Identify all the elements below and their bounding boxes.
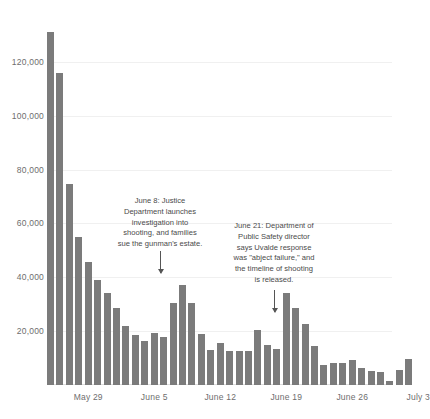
bar bbox=[245, 351, 252, 385]
bar bbox=[170, 303, 177, 385]
y-axis-tick-label: 100,000 bbox=[12, 111, 44, 121]
bar bbox=[292, 308, 299, 385]
y-axis-tick-label: 20,000 bbox=[17, 326, 44, 336]
bar bbox=[141, 341, 148, 385]
bar bbox=[47, 32, 54, 385]
annotation-june-21: June 21: Department of Public Safety dir… bbox=[219, 221, 329, 286]
bar bbox=[377, 372, 384, 385]
bar bbox=[75, 237, 82, 385]
bar bbox=[236, 351, 243, 385]
bar bbox=[283, 293, 290, 385]
bar bbox=[320, 365, 327, 385]
bar bbox=[179, 285, 186, 385]
bar bbox=[311, 346, 318, 385]
bar bbox=[396, 370, 403, 385]
bar bbox=[85, 262, 92, 385]
gridline bbox=[47, 170, 392, 171]
y-axis-tick-label: 80,000 bbox=[17, 165, 44, 175]
bar bbox=[104, 293, 111, 385]
bar bbox=[349, 360, 356, 385]
bar bbox=[160, 337, 167, 385]
bar bbox=[151, 333, 158, 386]
x-axis-tick-label: June 12 bbox=[204, 392, 236, 402]
bar bbox=[358, 368, 365, 385]
annotation-june-8-arrow bbox=[160, 251, 161, 273]
x-axis-tick-label: July 3 bbox=[407, 392, 430, 402]
gridline bbox=[47, 116, 392, 117]
bar bbox=[302, 324, 309, 385]
gridline bbox=[47, 62, 392, 63]
annotation-june-8: June 8: Justice Department launches inve… bbox=[112, 196, 208, 250]
bar bbox=[132, 335, 139, 385]
bar bbox=[339, 363, 346, 385]
bar bbox=[113, 308, 120, 385]
bar bbox=[386, 381, 393, 385]
bar bbox=[66, 184, 73, 385]
bar bbox=[330, 363, 337, 385]
annotation-june-21-arrow bbox=[274, 290, 275, 312]
y-axis-tick-label: 40,000 bbox=[17, 272, 44, 282]
bar bbox=[188, 303, 195, 385]
bar bbox=[264, 345, 271, 385]
bar bbox=[94, 280, 101, 385]
bar bbox=[368, 371, 375, 385]
y-axis-tick-label: 120,000 bbox=[12, 57, 44, 67]
bar bbox=[217, 343, 224, 385]
x-axis-tick-label: June 19 bbox=[270, 392, 302, 402]
x-axis-tick-label: June 26 bbox=[336, 392, 368, 402]
bar bbox=[56, 73, 63, 385]
bar bbox=[405, 359, 412, 385]
bar bbox=[198, 334, 205, 385]
bar bbox=[226, 351, 233, 385]
bar bbox=[122, 326, 129, 385]
x-axis-tick-label: May 29 bbox=[74, 392, 103, 402]
bar bbox=[207, 350, 214, 385]
bar bbox=[273, 349, 280, 385]
bar bbox=[254, 330, 261, 385]
y-axis-tick-label: 60,000 bbox=[17, 218, 44, 228]
plot-area bbox=[47, 8, 392, 385]
x-axis-tick-label: June 5 bbox=[141, 392, 168, 402]
